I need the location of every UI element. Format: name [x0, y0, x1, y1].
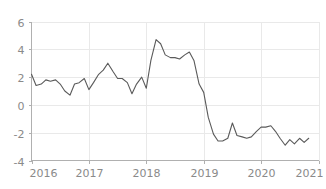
chart-container: 6420-2-4 201620172018201920202021 — [0, 0, 326, 189]
series-line — [32, 40, 309, 146]
x-tick-label: 2020 — [248, 167, 276, 180]
y-tick-label: 4 — [18, 44, 25, 57]
x-tick-label: 2021 — [296, 167, 324, 180]
y-tick-label: 0 — [18, 100, 25, 113]
gridlines — [32, 22, 320, 161]
x-tick-label: 2018 — [133, 167, 161, 180]
x-tick-label: 2016 — [30, 167, 58, 180]
x-tick-label: 2017 — [76, 167, 104, 180]
line-chart: 6420-2-4 201620172018201920202021 — [0, 0, 326, 189]
y-axis-tick-labels: 6420-2-4 — [14, 17, 25, 169]
axes — [29, 22, 320, 164]
x-tick-label: 2019 — [191, 167, 219, 180]
x-axis-tick-labels: 201620172018201920202021 — [30, 167, 324, 180]
y-tick-label: -2 — [14, 128, 25, 141]
data-series — [32, 40, 309, 146]
y-tick-label: 6 — [18, 17, 25, 30]
y-tick-label: 2 — [18, 72, 25, 85]
y-tick-label: -4 — [14, 156, 25, 169]
